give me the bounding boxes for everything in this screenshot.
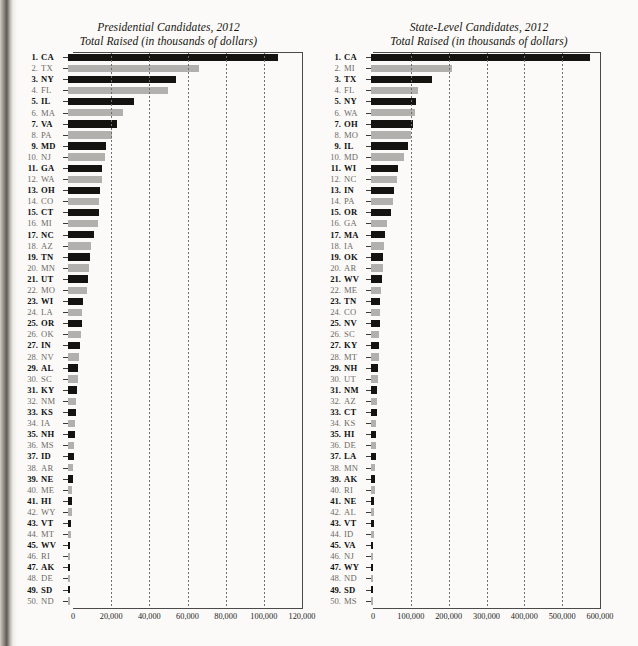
bar-row-state-abbr: MT [344,353,366,362]
bar-row-state-abbr: RI [41,552,63,561]
bar-cell [68,307,302,318]
bar-cell [68,507,302,518]
bar-row-rank: 44. [320,530,344,539]
bar [68,220,98,227]
x-gridline [149,52,150,607]
bar-row: 23.WI [17,296,302,307]
bar [68,242,91,249]
bar [371,409,377,416]
bar-row-rank: 44. [17,530,41,539]
bar-cell [371,440,600,451]
bar-cell [371,185,600,196]
bar-row-rank: 47. [17,563,41,572]
bar [68,453,74,460]
bar-row-state-abbr: MS [41,441,63,450]
bar-row-state-abbr: DE [41,574,63,583]
bar-row: 9.IL [320,141,600,152]
bar-row-state-abbr: ND [41,597,63,606]
bar-row: 18.AZ [17,241,302,252]
bar-row-state-abbr: WV [41,541,63,550]
bar-cell [68,196,302,207]
bar-row-state-abbr: CO [344,308,366,317]
bar-row: 42.WY [17,507,302,518]
bar-row: 43.VT [320,518,600,529]
bar-row: 8.MO [320,130,600,141]
bar-row-rank: 17. [17,231,41,240]
bar-row-state-abbr: IA [344,242,366,251]
bar [371,398,377,405]
bar-row-state-abbr: NC [41,231,63,240]
bar-row-rank: 45. [320,541,344,550]
x-gridline [188,52,189,607]
bar-row: 40.ME [17,485,302,496]
bar-cell [68,119,302,130]
bar-cell [371,230,600,241]
bar-row: 32.AZ [320,396,600,407]
bar [68,564,70,571]
bar-row-state-abbr: VT [344,519,366,528]
bar-cell [371,496,600,507]
bar-row: 41.HI [17,496,302,507]
bar [68,531,71,538]
bar [68,309,82,316]
x-tick-label: 20,000 [100,612,123,621]
bar-row-rank: 21. [320,275,344,284]
bar [371,464,375,471]
bar-row: 11.WI [320,163,600,174]
bar-cell [371,363,600,374]
bar [371,531,374,538]
bar-cell [371,596,600,607]
bar [371,209,391,216]
bar-row-rank: 1. [17,53,41,62]
bar [68,597,70,604]
bar-row-rank: 9. [320,142,344,151]
bar-row: 13.IN [320,185,600,196]
bar-row: 48.DE [17,573,302,584]
bar-row-rank: 46. [17,552,41,561]
bar-cell [68,152,302,163]
bar-row-rank: 23. [320,297,344,306]
bar-row-rank: 23. [17,297,41,306]
bar [68,420,75,427]
bar-cell [371,585,600,596]
bar-row-rank: 19. [17,253,41,262]
bar-cell [68,230,302,241]
bar-row-rank: 37. [17,452,41,461]
bar-row: 38.AR [17,462,302,473]
bar-row-rank: 42. [320,508,344,517]
bar [371,564,373,571]
bar-row-state-abbr: WI [41,297,63,306]
bar-row-state-abbr: ME [41,486,63,495]
bar-row: 1.CA [17,52,302,63]
bar-row-rank: 4. [320,86,344,95]
bar-row: 12.WA [17,174,302,185]
bar [371,120,413,127]
bar-row-state-abbr: NM [344,386,366,395]
bar-row-state-abbr: TN [41,253,63,262]
bar-row-state-abbr: TX [41,64,63,73]
bar [68,331,81,338]
bar [68,120,117,127]
bar [371,242,384,249]
bar-row-rank: 16. [320,219,344,228]
chart-left-title: Presidential Candidates, 2012 Total Rais… [17,20,320,48]
bar-row-state-abbr: CA [41,53,63,62]
bar [68,142,106,149]
bar [371,220,387,227]
chart-right-title-line2: Total Raised (in thousands of dollars) [320,34,638,48]
bar-row-rank: 22. [320,286,344,295]
bar [371,597,373,604]
bar [371,453,376,460]
bar-row-rank: 21. [17,275,41,284]
bar-row-state-abbr: OR [344,208,366,217]
bar-row: 22.ME [320,285,600,296]
bar-row: 20.AR [320,263,600,274]
bar-row-state-abbr: GA [41,164,63,173]
bar-row: 1.CA [320,52,600,63]
bar-cell [371,396,600,407]
x-gridline [111,52,112,607]
bar-row-state-abbr: MN [344,464,366,473]
bar-cell [68,440,302,451]
bar-row-state-abbr: MO [41,286,63,295]
bar [68,131,112,138]
